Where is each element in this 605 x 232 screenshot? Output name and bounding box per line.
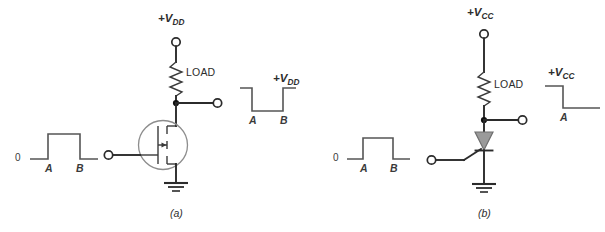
panel-b-supply-terminal[interactable] — [480, 30, 488, 38]
circuit-figure: +VDD LOAD 0 A B +VDD A B (a) +VCC LOAD 0… — [0, 0, 605, 232]
panel-b-input-mark-b: B — [390, 162, 398, 174]
panel-a-input-mark-a: A — [45, 162, 53, 174]
panel-b-gate-lead — [464, 149, 481, 160]
circuit-drawing-canvas — [0, 0, 605, 232]
panel-a-input-waveform — [30, 134, 98, 159]
panel-a-output-waveform — [240, 88, 296, 111]
panel-a-supply-terminal[interactable] — [172, 38, 180, 46]
panel-a-input-terminal[interactable] — [104, 151, 112, 159]
mosfet-symbol — [140, 126, 176, 164]
panel-b-load-label: LOAD — [494, 78, 523, 90]
panel-a-caption: (a) — [170, 207, 183, 219]
panel-b-load-resistor — [478, 72, 490, 106]
panel-b-input-mark-a: A — [360, 162, 368, 174]
panel-a-supply-label: +VDD — [158, 12, 185, 27]
panel-a-input-zero-label: 0 — [15, 152, 21, 163]
panel-a-output-supply-label: +VDD — [273, 72, 300, 87]
panel-b-caption: (b) — [478, 207, 491, 219]
panel-a-output-mark-b: B — [280, 114, 288, 126]
panel-a-ground-symbol — [164, 183, 188, 191]
panel-b-input-terminal[interactable] — [427, 156, 435, 164]
scr-thyristor-symbol — [475, 132, 493, 151]
panel-b-ground-symbol — [472, 184, 496, 192]
panel-b-output-waveform — [545, 86, 600, 108]
panel-a-load-resistor — [170, 62, 182, 96]
panel-b-supply-label: +VCC — [467, 6, 494, 21]
panel-b-output-terminal[interactable] — [518, 116, 526, 124]
panel-b-input-zero-label: 0 — [333, 152, 339, 163]
panel-b-output-mark-a: A — [560, 111, 568, 123]
panel-a-output-mark-a: A — [249, 114, 257, 126]
panel-a-input-mark-b: B — [76, 162, 84, 174]
panel-a-load-label: LOAD — [186, 66, 215, 78]
panel-b-input-waveform — [347, 138, 410, 159]
panel-b-output-supply-label: +VCC — [548, 66, 575, 81]
panel-a-output-terminal[interactable] — [213, 99, 221, 107]
